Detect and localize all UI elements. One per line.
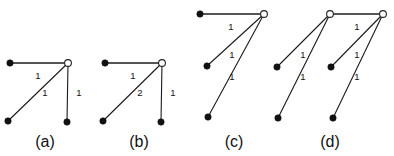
panel-d: 11111(d): [274, 11, 387, 150]
panel-caption-a: (a): [35, 133, 55, 150]
a-edge-right: [67, 63, 68, 122]
b-node-bottom-left: [100, 118, 106, 124]
graph-figure-svg: 111(a)121(b)111(c)11111(d): [0, 0, 394, 156]
c-edge-bottom-weight-label: 1: [229, 71, 234, 82]
c-node-hub: [261, 11, 268, 18]
b-edge-diagonal-weight-label: 2: [137, 87, 142, 98]
panel-caption-d: (d): [320, 133, 340, 150]
c-edge-middle: [207, 14, 264, 66]
d-edge-left-upper-weight-label: 1: [300, 49, 305, 60]
d-edge-left-lower: [278, 14, 330, 118]
c-edge-middle-weight-label: 1: [229, 49, 234, 60]
a-node-bottom-right: [64, 119, 70, 125]
b-node-top-left: [102, 60, 108, 66]
c-edge-top-weight-label: 1: [228, 21, 233, 32]
a-edge-right-weight-label: 1: [76, 87, 81, 98]
figure-root: 111(a)121(b)111(c)11111(d): [0, 0, 394, 156]
d-node-leaf-1: [274, 64, 280, 70]
panel-c: 111(c): [197, 11, 268, 150]
b-edge-right: [161, 63, 162, 122]
d-edge-right-upper-weight-label: 1: [354, 49, 359, 60]
d-edge-hub-to-hub-weight-label: 1: [354, 21, 359, 32]
a-edge-diagonal-weight-label: 1: [42, 87, 47, 98]
d-node-leaf-4: [330, 115, 336, 121]
d-node-hub-right: [380, 11, 387, 18]
b-node-bottom-right: [158, 119, 164, 125]
panel-b: 121(b): [100, 60, 176, 150]
a-node-bottom-left: [5, 118, 11, 124]
c-node-middle-left: [204, 63, 210, 69]
d-node-leaf-2: [275, 115, 281, 121]
d-node-hub-left: [327, 11, 334, 18]
panel-a: 111(a): [5, 60, 82, 150]
d-edge-right-lower-weight-label: 1: [354, 71, 359, 82]
c-edge-bottom: [208, 14, 264, 117]
b-node-hub: [159, 60, 166, 67]
a-node-top-left: [7, 60, 13, 66]
c-node-bottom-left: [205, 114, 211, 120]
panel-caption-b: (b): [129, 133, 149, 150]
a-edge-top-weight-label: 1: [35, 70, 40, 81]
b-edge-right-weight-label: 1: [170, 87, 175, 98]
b-edge-top-weight-label: 1: [130, 70, 135, 81]
d-edge-left-lower-weight-label: 1: [300, 71, 305, 82]
a-node-hub: [65, 60, 72, 67]
d-node-leaf-3: [328, 64, 334, 70]
c-node-top-left: [197, 11, 203, 17]
panel-caption-c: (c): [225, 133, 244, 150]
